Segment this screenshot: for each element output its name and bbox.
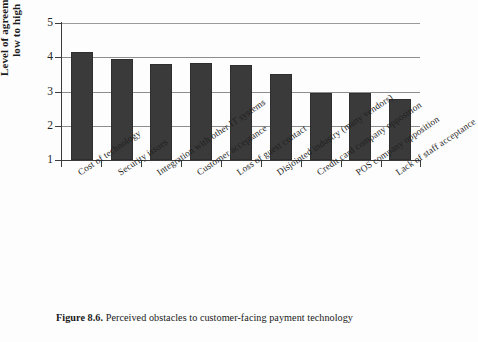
figure-caption-text: Perceived obstacles to customer-facing p… (106, 312, 353, 323)
y-axis-title: Level of agreement low to high (0, 0, 22, 84)
gridline-5 (62, 23, 420, 24)
y-tick-label-1: 1 (40, 154, 53, 166)
y-tick-label-5: 5 (40, 17, 53, 29)
figure-number: Figure 8.6. (56, 312, 103, 323)
y-tick-label-2: 2 (40, 120, 53, 132)
x-tick-mark (61, 161, 62, 167)
y-tick-label-3: 3 (40, 86, 53, 98)
y-tick-label-4: 4 (40, 51, 53, 63)
gridline-4 (62, 57, 420, 58)
bar (71, 52, 93, 160)
figure-caption: Figure 8.6. Perceived obstacles to custo… (56, 312, 396, 325)
y-axis-title-line1: Level of agreement (0, 0, 10, 84)
y-axis-title-line2: low to high (10, 0, 22, 84)
